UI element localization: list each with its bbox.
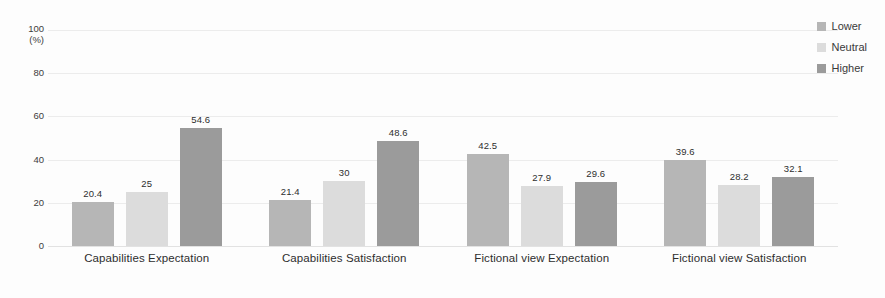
bar-item[interactable]: 20.4 (72, 30, 114, 246)
y-tick-label-80: 80 (33, 68, 44, 79)
bar-value-label: 30 (339, 167, 350, 178)
bar-item[interactable]: 32.1 (772, 30, 814, 246)
bar-chart: 020406080100(%) 20.42554.621.43048.642.5… (0, 0, 885, 298)
bar-value-label: 27.9 (532, 172, 551, 183)
bar-value-label: 42.5 (478, 140, 497, 151)
bar-neutral[interactable] (323, 181, 365, 246)
bar-item[interactable]: 28.2 (718, 30, 760, 246)
bar-value-label: 29.6 (586, 168, 605, 179)
bar-value-label: 20.4 (83, 188, 102, 199)
bar-higher[interactable] (772, 177, 814, 246)
bar-higher[interactable] (575, 182, 617, 246)
bar-lower[interactable] (664, 160, 706, 246)
y-axis-unit: (%) (28, 35, 44, 46)
bar-neutral[interactable] (718, 185, 760, 246)
y-tick-label-40: 40 (33, 154, 44, 165)
x-axis-category-label: Fictional view Expectation (443, 252, 641, 264)
bar-value-label: 25 (141, 178, 152, 189)
bar-value-label: 48.6 (389, 127, 408, 138)
bar-group: 20.42554.6 (48, 30, 246, 246)
chart-legend: LowerNeutralHigher (817, 20, 867, 74)
bar-item[interactable]: 29.6 (575, 30, 617, 246)
y-tick-label-100: 100(%) (28, 24, 44, 46)
bar-lower[interactable] (269, 200, 311, 246)
bar-higher[interactable] (180, 128, 222, 246)
bar-group: 21.43048.6 (246, 30, 444, 246)
bar-group-bars: 42.527.929.6 (443, 30, 641, 246)
bar-item[interactable]: 42.5 (467, 30, 509, 246)
bar-item[interactable]: 54.6 (180, 30, 222, 246)
legend-swatch-icon (817, 22, 826, 31)
legend-item-neutral[interactable]: Neutral (817, 41, 867, 53)
bar-groups: 20.42554.621.43048.642.527.929.639.628.2… (48, 30, 838, 246)
bar-item[interactable]: 25 (126, 30, 168, 246)
legend-label: Neutral (832, 41, 867, 53)
bar-item[interactable]: 21.4 (269, 30, 311, 246)
bar-value-label: 21.4 (281, 186, 300, 197)
gridline-0 (48, 246, 838, 247)
legend-label: Lower (832, 20, 862, 32)
x-axis-category-label: Capabilities Expectation (48, 252, 246, 264)
bar-item[interactable]: 27.9 (521, 30, 563, 246)
bar-item[interactable]: 48.6 (377, 30, 419, 246)
legend-item-lower[interactable]: Lower (817, 20, 867, 32)
bar-lower[interactable] (467, 154, 509, 246)
bar-higher[interactable] (377, 141, 419, 246)
x-axis-category-label: Fictional view Satisfaction (641, 252, 839, 264)
bar-item[interactable]: 30 (323, 30, 365, 246)
bar-neutral[interactable] (521, 186, 563, 246)
bar-value-label: 32.1 (784, 163, 803, 174)
bar-value-label: 54.6 (191, 114, 210, 125)
bar-group-bars: 21.43048.6 (246, 30, 444, 246)
legend-label: Higher (832, 62, 864, 74)
bar-value-label: 39.6 (676, 146, 695, 157)
bar-group: 39.628.232.1 (641, 30, 839, 246)
y-tick-label-0: 0 (39, 241, 44, 252)
bar-group-bars: 39.628.232.1 (641, 30, 839, 246)
bar-value-label: 28.2 (730, 171, 749, 182)
bar-item[interactable]: 39.6 (664, 30, 706, 246)
x-axis-category-label: Capabilities Satisfaction (246, 252, 444, 264)
bar-group: 42.527.929.6 (443, 30, 641, 246)
y-axis: 020406080100(%) (0, 30, 44, 246)
y-tick-label-20: 20 (33, 197, 44, 208)
bar-neutral[interactable] (126, 192, 168, 246)
legend-item-higher[interactable]: Higher (817, 62, 867, 74)
y-tick-label-60: 60 (33, 111, 44, 122)
x-axis: Capabilities ExpectationCapabilities Sat… (48, 252, 838, 264)
bar-group-bars: 20.42554.6 (48, 30, 246, 246)
bar-lower[interactable] (72, 202, 114, 246)
legend-swatch-icon (817, 64, 826, 73)
legend-swatch-icon (817, 43, 826, 52)
